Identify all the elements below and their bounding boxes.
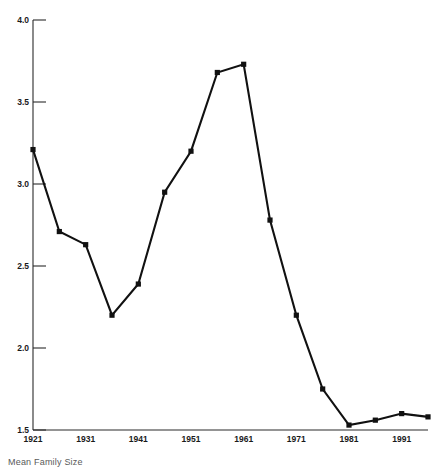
data-point-marker [294,313,299,318]
series-line-mean-family-size [33,64,428,425]
y-tick-label: 4.0 [17,15,29,25]
x-tick-label: 1991 [392,434,411,444]
data-point-marker [109,313,114,318]
x-tick-label: 1961 [234,434,253,444]
data-point-marker [30,147,35,152]
x-tick-label: 1921 [24,434,43,444]
chart-caption: Mean Family Size [8,457,83,467]
data-point-marker [346,422,351,427]
series-markers [30,62,430,428]
y-tick-label: 3.5 [17,97,29,107]
data-point-marker [57,229,62,234]
data-point-marker [320,386,325,391]
data-point-marker [136,281,141,286]
x-tick-label: 1971 [287,434,306,444]
y-axis: 4.03.53.02.52.01.5 [17,15,46,435]
x-axis: 19211931194119511961197119811991 [24,430,428,444]
x-tick-label: 1951 [182,434,201,444]
x-tick-label: 1931 [76,434,95,444]
data-point-marker [425,414,430,419]
y-tick-label: 2.0 [17,343,29,353]
data-point-marker [215,70,220,75]
data-point-marker [373,418,378,423]
data-point-marker [241,62,246,67]
y-tick-label: 2.5 [17,261,29,271]
data-point-marker [188,149,193,154]
data-point-marker [162,190,167,195]
x-tick-label: 1941 [129,434,148,444]
data-point-marker [399,411,404,416]
data-point-marker [267,217,272,222]
x-tick-label: 1981 [340,434,359,444]
data-point-marker [83,242,88,247]
y-tick-label: 3.0 [17,179,29,189]
